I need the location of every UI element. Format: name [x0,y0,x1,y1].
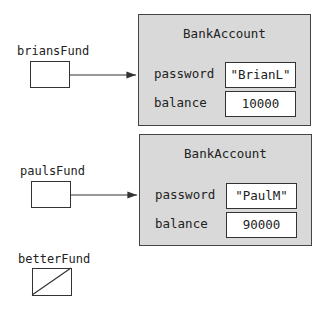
field-value-password: "BrianL" [225,62,296,88]
variable-label-briansFund: briansFund [17,44,89,58]
field-label-password: password [155,187,215,202]
variable-label-paulsFund: paulsFund [20,164,85,178]
field-value-password: "PaulM" [226,183,297,209]
field-value-balance: 90000 [226,212,297,238]
variable-box-briansFund [30,61,70,88]
field-value-balance: 10000 [225,91,296,117]
field-label-balance: balance [155,216,208,231]
variable-label-betterFund: betterFund [18,252,90,266]
variable-box-paulsFund [31,181,71,208]
object-bankaccount-paul: BankAccount password "PaulM" balance 900… [139,134,312,246]
field-label-password: password [154,66,214,81]
object-bankaccount-brian: BankAccount password "BrianL" balance 10… [138,14,311,126]
object-class-name: BankAccount [139,26,310,41]
field-label-balance: balance [154,95,207,110]
object-class-name: BankAccount [140,146,311,161]
variable-box-betterFund [32,268,72,296]
